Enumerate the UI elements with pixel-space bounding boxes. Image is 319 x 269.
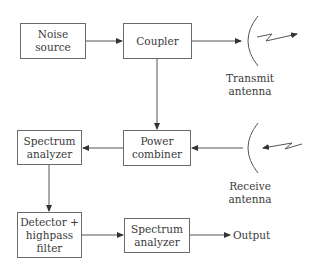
noise-source-line1: Noise <box>38 28 68 41</box>
transmit-antenna-label: Transmit antenna <box>222 72 278 98</box>
detector-line2: highpass <box>26 229 73 242</box>
transmit-label-line2: antenna <box>222 85 278 98</box>
receive-wave-icon <box>263 143 302 149</box>
output-label: Output <box>233 229 270 242</box>
receive-label-line2: antenna <box>222 193 278 206</box>
receive-label-line1: Receive <box>222 180 278 193</box>
spectrum-analyzer-2-line2: analyzer <box>134 236 179 249</box>
noise-source-block: Noise source <box>20 23 86 59</box>
coupler-label: Coupler <box>136 35 178 48</box>
power-combiner-block: Power combiner <box>123 130 191 166</box>
transmit-label-line1: Transmit <box>222 72 278 85</box>
spectrum-analyzer-2-line1: Spectrum <box>131 223 183 236</box>
transmit-wave-icon <box>257 34 297 41</box>
spectrum-analyzer-1-line1: Spectrum <box>24 135 76 148</box>
transmit-antenna-icon <box>248 16 258 66</box>
receive-antenna-label: Receive antenna <box>222 180 278 206</box>
power-combiner-line2: combiner <box>132 148 182 161</box>
power-combiner-line1: Power <box>140 135 173 148</box>
noise-source-line2: source <box>35 41 71 54</box>
detector-line1: Detector + <box>20 216 79 229</box>
receive-antenna-icon <box>248 123 258 173</box>
detector-filter-block: Detector + highpass filter <box>17 212 82 258</box>
spectrum-analyzer-block-1: Spectrum analyzer <box>17 130 82 165</box>
coupler-block: Coupler <box>123 23 192 59</box>
spectrum-analyzer-1-line2: analyzer <box>27 148 72 161</box>
spectrum-analyzer-block-2: Spectrum analyzer <box>124 218 190 253</box>
detector-line3: filter <box>37 242 63 255</box>
